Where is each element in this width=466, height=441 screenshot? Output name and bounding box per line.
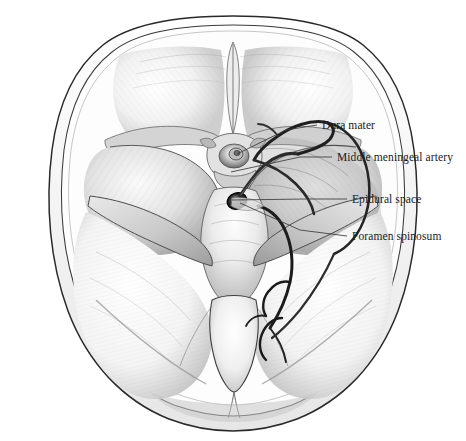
label-epidural-space: Epidural space bbox=[352, 193, 421, 206]
label-middle-meningeal-artery: Middle meningeal artery bbox=[337, 151, 453, 164]
skull-base-illustration: Dura mater Middle meningeal artery Epidu… bbox=[0, 0, 466, 441]
cranium-group bbox=[49, 16, 417, 431]
figure-root: Dura mater Middle meningeal artery Epidu… bbox=[0, 0, 466, 441]
label-foramen-spinosum: Foramen spinosum bbox=[352, 230, 441, 243]
label-dura-mater: Dura mater bbox=[322, 119, 375, 131]
